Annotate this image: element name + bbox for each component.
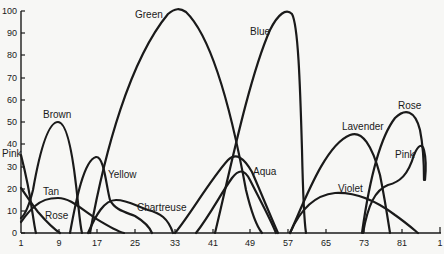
x-tick-labels: 1 9 17 25 33 41 49 57 65 73 81 1	[18, 238, 442, 248]
label-chartreuse: Chartreuse	[137, 202, 187, 213]
label-pink-right: Pink	[395, 149, 415, 160]
curve-violet	[290, 193, 418, 233]
y-tick-label: 90	[7, 28, 17, 38]
label-yellow: Yellow	[108, 169, 137, 180]
x-tick-label: 9	[56, 238, 61, 248]
x-tick-label: 41	[208, 238, 218, 248]
x-tick-label: 49	[245, 238, 255, 248]
label-lavender: Lavender	[342, 121, 384, 132]
x-tick-label: 1	[18, 238, 23, 248]
label-blue: Blue	[250, 26, 270, 37]
y-tick-label: 10	[7, 206, 17, 216]
y-tick-label: 60	[7, 95, 17, 105]
y-tick-label: 70	[7, 73, 17, 83]
y-tick-labels: 0 10 20 30 40 50 60 70 80 90 100	[2, 6, 17, 238]
curve-pink-left	[21, 155, 36, 233]
y-tick-label: 80	[7, 50, 17, 60]
x-tick-label: 1	[437, 238, 442, 248]
x-tick-label: 25	[130, 238, 140, 248]
y-tick-label: 30	[7, 162, 17, 172]
x-tick-label: 17	[92, 238, 102, 248]
label-violet: Violet	[338, 183, 363, 194]
label-rose-left: Rose	[45, 210, 69, 221]
x-tick-label: 65	[321, 238, 331, 248]
y-tick-label: 100	[2, 6, 17, 16]
label-brown: Brown	[43, 109, 71, 120]
series-labels: Pink Brown Tan Rose Yellow Chartreuse Gr…	[2, 9, 422, 221]
label-aqua: Aqua	[253, 166, 277, 177]
x-tick-label: 33	[170, 238, 180, 248]
chart: 0 10 20 30 40 50 60 70 80 90 100 1 9 17 …	[0, 0, 444, 254]
y-tick-label: 0	[12, 228, 17, 238]
label-rose-right: Rose	[398, 100, 422, 111]
x-tick-label: 57	[283, 238, 293, 248]
x-tick-label: 81	[397, 238, 407, 248]
label-pink-left: Pink	[2, 148, 22, 159]
y-tick-label: 20	[7, 184, 17, 194]
y-tick-label: 50	[7, 117, 17, 127]
label-tan: Tan	[43, 186, 59, 197]
label-green: Green	[135, 9, 163, 20]
x-tick-label: 73	[359, 238, 369, 248]
